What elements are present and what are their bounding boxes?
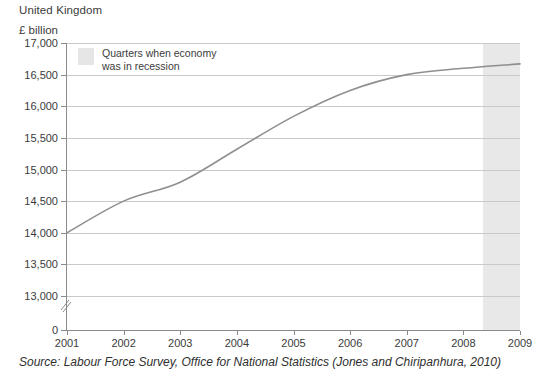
y-tick-label: 14,000 — [24, 227, 58, 239]
x-tick-label: 2005 — [281, 337, 305, 349]
x-tick-label: 2002 — [111, 337, 135, 349]
axis-break-icon — [59, 296, 73, 316]
y-tick-label: 15,500 — [24, 132, 58, 144]
x-tick-label: 2004 — [225, 337, 249, 349]
x-tick-label: 2009 — [508, 337, 532, 349]
y-tick-mark — [61, 233, 66, 234]
y-tick-mark — [61, 201, 66, 202]
plot-area — [67, 43, 520, 330]
y-tick-label: 15,000 — [24, 164, 58, 176]
y-tick-label: 0 — [52, 324, 58, 336]
series-line-group — [67, 43, 520, 330]
x-tick-mark — [350, 331, 351, 335]
y-axis-line — [66, 43, 67, 330]
y-tick-label: 13,000 — [24, 290, 58, 302]
y-tick-label: 14,500 — [24, 195, 58, 207]
y-tick-mark — [61, 43, 66, 44]
x-tick-mark — [407, 331, 408, 335]
y-tick-mark — [61, 75, 66, 76]
x-tick-mark — [67, 331, 68, 335]
y-tick-mark — [61, 264, 66, 265]
x-tick-label: 2001 — [55, 337, 79, 349]
chart-figure: United Kingdom £ billion 013,00013,50014… — [0, 0, 552, 381]
y-tick-label: 16,500 — [24, 69, 58, 81]
x-tick-mark — [294, 331, 295, 335]
series-line — [67, 64, 520, 233]
y-tick-label: 13,500 — [24, 258, 58, 270]
x-tick-mark — [463, 331, 464, 335]
y-tick-mark — [61, 138, 66, 139]
y-tick-mark — [61, 170, 66, 171]
x-tick-mark — [520, 331, 521, 335]
y-tick-label: 17,000 — [24, 37, 58, 49]
y-tick-label: 16,000 — [24, 100, 58, 112]
y-axis-unit-label: £ billion — [19, 24, 58, 36]
y-tick-mark — [61, 330, 66, 331]
y-tick-mark — [61, 106, 66, 107]
legend-label-recession: Quarters when economy was in recession — [102, 47, 216, 72]
legend-swatch-recession — [78, 48, 94, 65]
x-tick-label: 2003 — [168, 337, 192, 349]
x-tick-mark — [124, 331, 125, 335]
page-title: United Kingdom — [19, 4, 102, 16]
x-tick-label: 2008 — [451, 337, 475, 349]
x-tick-mark — [180, 331, 181, 335]
source-note: Source: Labour Force Survey, Office for … — [19, 355, 501, 369]
x-tick-label: 2006 — [338, 337, 362, 349]
legend: Quarters when economy was in recession — [78, 47, 216, 72]
x-tick-mark — [237, 331, 238, 335]
x-tick-label: 2007 — [395, 337, 419, 349]
